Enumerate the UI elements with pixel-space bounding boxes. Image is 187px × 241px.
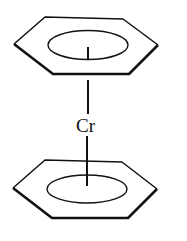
- dibenzenechromium-diagram: Cr: [0, 0, 187, 241]
- chromium-label: Cr: [76, 115, 96, 136]
- bottom-benzene-ring: [13, 160, 157, 218]
- top-benzene-ring: [14, 17, 158, 74]
